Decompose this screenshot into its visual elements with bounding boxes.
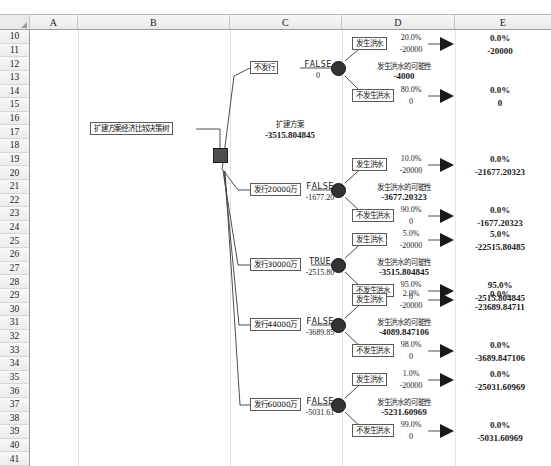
decision-value-5: -5031.61 bbox=[306, 408, 335, 417]
tree-title-box[interactable]: 扩建方案经济比较决策树 bbox=[90, 122, 173, 135]
option-box-3[interactable]: 发行30000万 bbox=[250, 258, 301, 271]
end-value-5-1: -25031.60969 bbox=[475, 382, 525, 392]
endpoint-triangle-1-2 bbox=[440, 89, 454, 103]
outcome-prob-3-2: 95.0% bbox=[401, 280, 422, 289]
decision-value-3: -2515.80 bbox=[306, 268, 335, 277]
outcome-box-5-2[interactable]: 不发生洪水 bbox=[352, 424, 394, 437]
end-prob-2-2: 0.0% bbox=[490, 205, 510, 215]
chance-label-4: 发生洪水的可能性 bbox=[377, 316, 431, 327]
root-decision-node[interactable] bbox=[213, 148, 228, 163]
outcome-box-1-2[interactable]: 不发生洪水 bbox=[352, 89, 394, 102]
outcome-prob-5-1: 1.0% bbox=[403, 369, 420, 378]
chance-node-3[interactable] bbox=[331, 258, 346, 273]
outcome-box-2-1[interactable]: 发生洪水 bbox=[352, 158, 387, 171]
endpoint-triangle-3-1 bbox=[440, 233, 454, 247]
outcome-prob-2-1: 10.0% bbox=[401, 154, 422, 163]
end-prob-1-2: 0.0% bbox=[490, 85, 510, 95]
decision-flag-1: FALSE bbox=[304, 59, 332, 69]
chance-node-4[interactable] bbox=[331, 318, 346, 333]
chance-value-3: -3515.804845 bbox=[379, 267, 429, 277]
outcome-payoff-4-2: 0 bbox=[409, 352, 413, 361]
outcome-prob-1-1: 20.0% bbox=[401, 33, 422, 42]
endpoint-triangle-5-1 bbox=[440, 373, 454, 387]
outcome-payoff-5-2: 0 bbox=[409, 432, 413, 441]
decision-flag-3: TRUE bbox=[309, 256, 331, 266]
chance-node-2[interactable] bbox=[331, 183, 346, 198]
end-prob-5-2: 0.0% bbox=[490, 420, 510, 430]
outcome-box-2-2[interactable]: 不发生洪水 bbox=[352, 209, 394, 222]
decision-flag-5: FALSE bbox=[306, 396, 334, 406]
outcome-prob-3-1: 5.0% bbox=[403, 229, 420, 238]
end-prob-4-1: 0.0% bbox=[490, 289, 510, 299]
chance-value-2: -3677.20323 bbox=[381, 192, 427, 202]
option-box-4[interactable]: 发行44000万 bbox=[250, 318, 301, 331]
outcome-box-4-2[interactable]: 不发生洪水 bbox=[352, 344, 394, 357]
end-value-1-1: -20000 bbox=[487, 46, 513, 56]
chance-label-1: 发生洪水的可能性 bbox=[377, 60, 431, 71]
option-box-1[interactable]: 不发行 bbox=[250, 61, 278, 74]
end-value-1-2: 0 bbox=[498, 98, 503, 108]
decision-value-4: -3689.85 bbox=[306, 328, 335, 337]
end-value-5-2: -5031.60969 bbox=[477, 433, 523, 443]
chance-node-5[interactable] bbox=[331, 398, 346, 413]
end-value-2-2: -1677.20323 bbox=[477, 218, 523, 228]
endpoint-triangle-1-1 bbox=[440, 37, 454, 51]
decision-flag-2: FALSE bbox=[306, 181, 334, 191]
outcome-prob-4-1: 2.0% bbox=[403, 289, 420, 298]
outcome-box-3-1[interactable]: 发生洪水 bbox=[352, 233, 387, 246]
outcome-prob-1-2: 80.0% bbox=[401, 85, 422, 94]
end-value-2-1: -21677.20323 bbox=[475, 167, 525, 177]
end-value-4-1: -23689.84711 bbox=[475, 302, 525, 312]
outcome-payoff-2-1: -20000 bbox=[400, 166, 423, 175]
decision-value-2: -1677.20 bbox=[306, 193, 335, 202]
endpoint-triangle-2-1 bbox=[440, 158, 454, 172]
end-prob-4-2: 0.0% bbox=[490, 340, 510, 350]
option-box-2[interactable]: 发行20000万 bbox=[250, 183, 301, 196]
end-value-4-2: -3689.847106 bbox=[475, 353, 525, 363]
chance-node-1[interactable] bbox=[331, 61, 346, 76]
end-prob-1-1: 0.0% bbox=[490, 33, 510, 43]
decision-flag-4: FALSE bbox=[306, 316, 334, 326]
decision-tree-diagram[interactable]: 扩建方案经济比较决策树 扩建方案 -3515.804845 不发行 FALSE … bbox=[0, 0, 551, 466]
outcome-payoff-2-2: 0 bbox=[409, 217, 413, 226]
end-prob-3-1: 5.0% bbox=[490, 229, 510, 239]
outcome-prob-5-2: 99.0% bbox=[401, 420, 422, 429]
end-prob-2-1: 0.0% bbox=[490, 154, 510, 164]
outcome-box-4-1[interactable]: 发生洪水 bbox=[352, 293, 387, 306]
endpoint-triangle-4-2 bbox=[440, 344, 454, 358]
chance-label-2: 发生洪水的可能性 bbox=[377, 181, 431, 192]
option-box-5[interactable]: 发行60000万 bbox=[250, 398, 301, 411]
endpoint-triangle-2-2 bbox=[440, 209, 454, 223]
outcome-payoff-3-1: -20000 bbox=[400, 241, 423, 250]
decision-value-1: 0 bbox=[316, 71, 320, 80]
end-prob-5-1: 0.0% bbox=[490, 369, 510, 379]
root-value: -3515.804845 bbox=[265, 130, 315, 140]
outcome-payoff-5-1: -20000 bbox=[400, 381, 423, 390]
outcome-box-5-1[interactable]: 发生洪水 bbox=[352, 373, 387, 386]
outcome-prob-2-2: 90.0% bbox=[401, 205, 422, 214]
endpoint-triangle-5-2 bbox=[440, 424, 454, 438]
outcome-prob-4-2: 98.0% bbox=[401, 340, 422, 349]
chance-label-5: 发生洪水的可能性 bbox=[377, 396, 431, 407]
chance-value-4: -4089.847106 bbox=[379, 327, 429, 337]
chance-value-5: -5231.60969 bbox=[381, 407, 427, 417]
chance-value-1: -4000 bbox=[394, 71, 415, 81]
endpoint-triangle-4-1 bbox=[440, 293, 454, 307]
outcome-payoff-1-2: 0 bbox=[409, 97, 413, 106]
outcome-box-1-1[interactable]: 发生洪水 bbox=[352, 37, 387, 50]
outcome-payoff-4-1: -20000 bbox=[400, 301, 423, 310]
outcome-payoff-1-1: -20000 bbox=[400, 45, 423, 54]
end-value-3-1: -22515.80485 bbox=[475, 242, 525, 252]
chance-label-3: 发生洪水的可能性 bbox=[377, 256, 431, 267]
root-label: 扩建方案 bbox=[276, 118, 303, 129]
